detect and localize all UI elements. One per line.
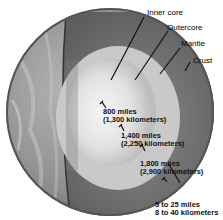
outer-core-thickness: 1,400 miles (2,250 kilometers)	[121, 132, 184, 148]
mantle-thickness: 1,800 miles (2,900 kilometers)	[140, 160, 203, 176]
label-inner-core: Inner core	[147, 9, 183, 17]
outer-core-km: (2,250 kilometers)	[121, 140, 184, 148]
crust-thickness: 5 to 25 miles 8 to 40 kilometers	[155, 201, 218, 217]
mantle-km: (2,900 kilometers)	[140, 168, 203, 176]
label-outer-core: Outercore	[167, 24, 203, 32]
earth-layers-diagram: Inner core Outercore Mantle Crust 800 mi…	[0, 0, 223, 220]
crust-km: 8 to 40 kilometers	[155, 209, 218, 217]
label-mantle: Mantle	[181, 40, 205, 48]
inner-core-thickness: 800 miles (1,300 kilometers)	[103, 108, 166, 124]
inner-core-km: (1,300 kilometers)	[103, 116, 166, 124]
label-crust: Crust	[193, 57, 212, 65]
